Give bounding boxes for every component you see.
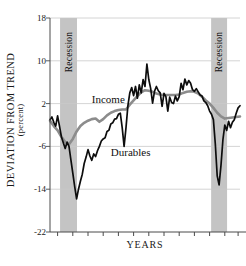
y-axis-tick-label: -14 <box>22 184 46 194</box>
y-axis-tick-label: -22 <box>22 227 46 237</box>
chart-figure: DEVIATION FROM TREND (percent) 18102-6-1… <box>0 0 246 266</box>
series-label-durables: Durables <box>111 146 151 158</box>
x-axis-title: YEARS <box>50 239 240 250</box>
y-axis-tick-label: -6 <box>22 141 46 151</box>
series-label-income: Income <box>92 93 125 105</box>
y-axis-tick-label: 18 <box>22 13 46 23</box>
plot-area: Recession Recession Income Durables <box>50 18 240 232</box>
x-axis-ticks <box>58 232 239 236</box>
y-axis-tick-label: 2 <box>22 99 46 109</box>
recession-band-label-left: Recession <box>29 47 109 57</box>
y-axis-tick-labels: 18102-6-14-22 <box>22 0 46 266</box>
recession-band-label-right: Recession <box>179 47 246 57</box>
